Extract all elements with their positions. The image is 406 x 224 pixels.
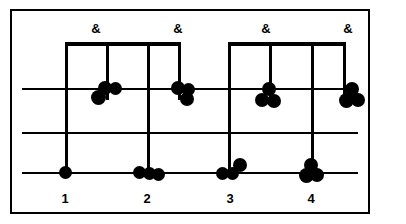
- staff-line-middle-line: [22, 132, 358, 134]
- beam-beat-1-and: [65, 42, 179, 46]
- count-label-4: 4: [301, 192, 321, 206]
- notehead-top-9: [267, 94, 281, 108]
- stem-beat-2: [147, 42, 150, 178]
- notehead-top-6: [180, 92, 194, 106]
- count-label-3: 3: [220, 192, 240, 206]
- beam-beat-3-and: [228, 42, 344, 46]
- and-label-2: &: [168, 22, 188, 36]
- music-staff: &&&&1234: [0, 0, 406, 224]
- stem-beat-3: [228, 42, 231, 178]
- notehead-top-3: [109, 82, 122, 95]
- and-label-3: &: [256, 22, 276, 36]
- notehead-bottom-1: [59, 166, 72, 179]
- drum-notation-figure: &&&&1234: [0, 0, 406, 224]
- notehead-bottom-7: [233, 158, 247, 172]
- stem-beat-1: [65, 42, 68, 178]
- notehead-top-12: [351, 93, 365, 107]
- and-label-4: &: [338, 22, 358, 36]
- count-label-1: 1: [55, 192, 75, 206]
- notehead-bottom-10: [310, 168, 324, 182]
- and-label-1: &: [86, 22, 106, 36]
- notehead-bottom-4: [152, 168, 165, 181]
- count-label-2: 2: [137, 192, 157, 206]
